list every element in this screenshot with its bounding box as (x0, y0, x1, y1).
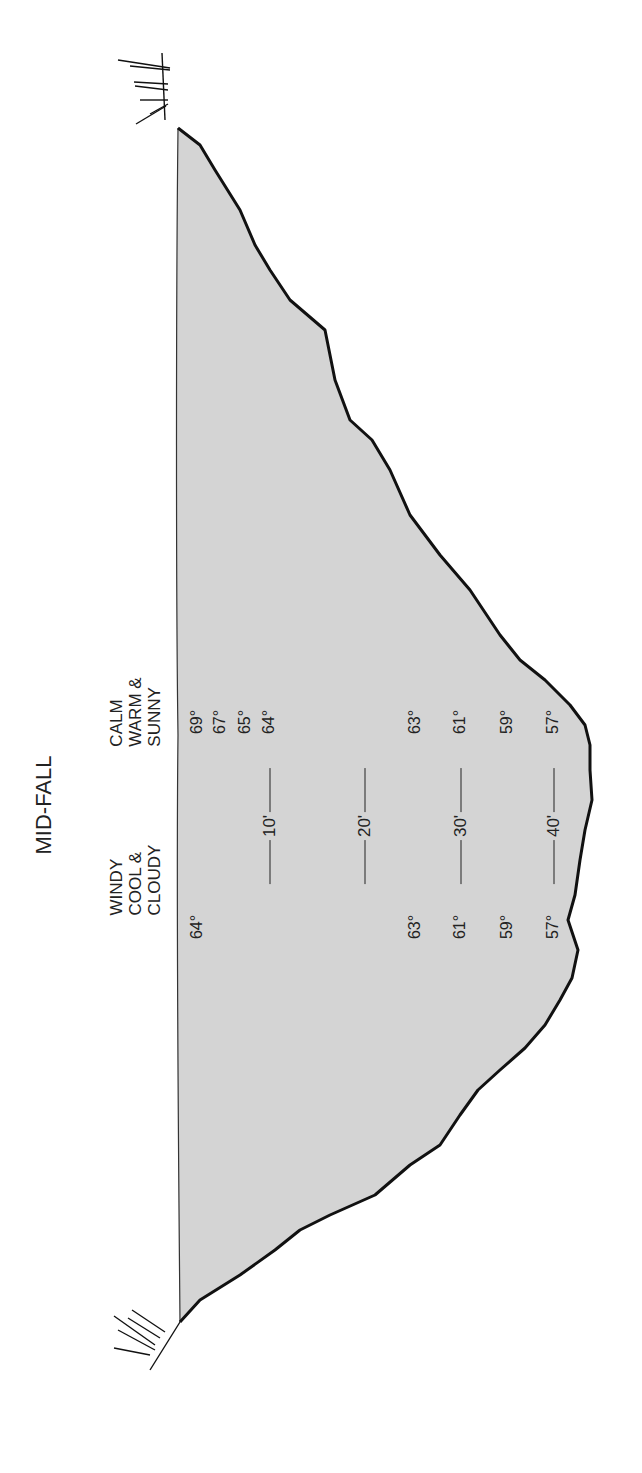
temp-calm-40ft: 57° (545, 710, 561, 734)
condition-label-left: WINDY COOL & CLOUDY (107, 845, 164, 916)
depth-rule (461, 840, 462, 884)
temp-windy-20ft: 63° (407, 915, 423, 939)
lake-profile (0, 0, 642, 1473)
temp-calm-35ft: 59° (499, 710, 515, 734)
temp-calm-near-surface-2: 65° (237, 710, 253, 734)
temp-windy-40ft: 57° (545, 915, 561, 939)
temp-windy-35ft: 59° (499, 915, 515, 939)
depth-rule (365, 768, 366, 812)
depth-rule (554, 768, 555, 812)
depth-rule (554, 840, 555, 884)
temp-calm-20ft: 63° (407, 710, 423, 734)
depth-rule (461, 768, 462, 812)
lake-cross-section-diagram: MID-FALL CALM WARM & SUNNY WINDY COOL & … (0, 0, 642, 1473)
depth-rule (270, 840, 271, 884)
temp-calm-10ft: 64° (261, 710, 277, 734)
depth-marker-30ft: 30' (452, 765, 469, 887)
depth-rule (365, 840, 366, 884)
depth-marker-10ft: 10' (261, 765, 278, 887)
depth-rule (270, 768, 271, 812)
temp-calm-surface: 69° (189, 710, 205, 734)
diagram-title: MID-FALL (33, 755, 55, 854)
temp-windy-30ft: 61° (452, 915, 468, 939)
reeds-top-icon (118, 53, 170, 124)
depth-marker-40ft: 40' (545, 765, 562, 887)
reeds-bottom-icon (114, 1310, 180, 1370)
condition-label-right: CALM WARM & SUNNY (107, 677, 164, 746)
depth-marker-20ft: 20' (356, 765, 373, 887)
temp-calm-30ft: 61° (452, 710, 468, 734)
temp-calm-near-surface-1: 67° (212, 710, 228, 734)
temp-windy-surface: 64° (189, 915, 205, 939)
